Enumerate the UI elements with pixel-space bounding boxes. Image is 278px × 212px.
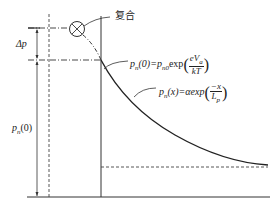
eq1-leader [104, 61, 128, 69]
recombination-icon [70, 22, 85, 37]
equation-pnx: pn(x)=αexp(−xLp) [159, 82, 227, 104]
delta-p-label: Δp [16, 39, 27, 49]
diagram-canvas [0, 0, 278, 212]
decay-extrapolation [83, 35, 101, 60]
equation-pn0: pn(0)=pn0exp(eVakT) [130, 54, 209, 76]
eq2-leader [134, 88, 156, 97]
recombination-label: 复合 [115, 11, 135, 21]
recombination-leader [84, 17, 110, 26]
pn0-axis-label: pn(0) [12, 123, 32, 136]
